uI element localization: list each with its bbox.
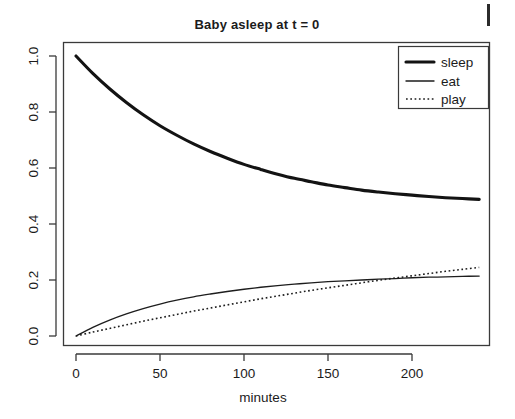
legend-label-sleep: sleep [441, 55, 473, 70]
chart-figure: Baby asleep at t = 0 1.0 0.8 0.6 0.4 0.2… [0, 0, 515, 419]
x-tick-label-100: 100 [233, 366, 256, 381]
page-edge-artifact [487, 4, 490, 26]
x-tick-label-150: 150 [317, 366, 340, 381]
y-axis-ticks [49, 56, 56, 336]
x-tick-label-0: 0 [72, 366, 80, 381]
y-tick-label-0.0: 0.0 [26, 327, 41, 346]
x-tick-label-50: 50 [152, 366, 167, 381]
line-chart-canvas: Baby asleep at t = 0 1.0 0.8 0.6 0.4 0.2… [0, 0, 515, 419]
x-axis-ticks [76, 354, 412, 361]
y-tick-label-0.8: 0.8 [26, 103, 41, 122]
x-axis-label: minutes [239, 390, 287, 405]
series-line-eat [76, 276, 479, 336]
chart-legend: sleep eat play [399, 47, 489, 109]
legend-label-play: play [441, 92, 466, 107]
y-tick-label-1.0: 1.0 [26, 47, 41, 66]
y-tick-label-0.6: 0.6 [26, 159, 41, 178]
legend-label-eat: eat [441, 74, 460, 89]
x-tick-label-200: 200 [401, 366, 424, 381]
chart-title: Baby asleep at t = 0 [194, 17, 319, 32]
y-tick-label-0.4: 0.4 [26, 214, 41, 233]
y-tick-label-0.2: 0.2 [26, 271, 41, 290]
